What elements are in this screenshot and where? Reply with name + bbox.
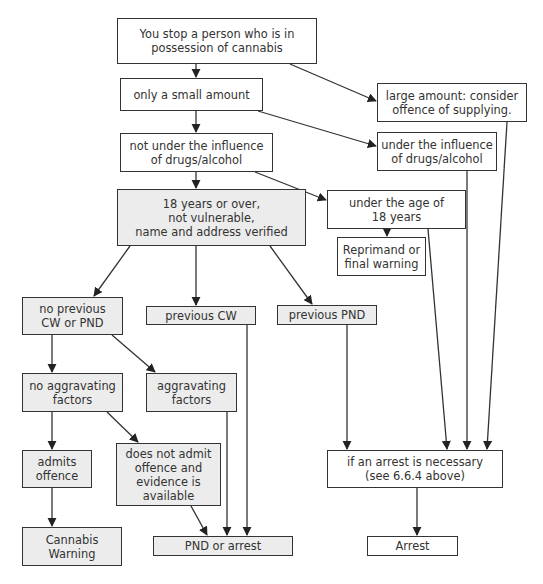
node-over-18-label: 18 years or over, not vulnerable, name a… (135, 197, 287, 239)
node-arrest-necessary: if an arrest is necessary (see 6.6.4 abo… (327, 450, 503, 488)
node-pnd-or-arrest: PND or arrest (153, 536, 293, 556)
node-no-aggravating: no aggravating factors (22, 373, 123, 412)
node-under-influence-label: under the influence of drugs/alcohol (381, 138, 493, 166)
node-arrest-label: Arrest (395, 539, 429, 553)
arrow-no-previous-to-aggravating (112, 335, 155, 372)
node-cannabis-warning: Cannabis Warning (22, 527, 122, 566)
node-no-aggravating-label: no aggravating factors (29, 379, 116, 407)
node-large-amount-label: large amount: consider offence of supply… (386, 89, 518, 117)
arrow-under18-to-arrest-necessary (428, 229, 447, 449)
node-admits: admits offence (22, 450, 92, 488)
arrow-not-admit-to-pnd (191, 506, 207, 535)
node-start-label: You stop a person who is in possession o… (140, 27, 295, 55)
node-small-amount-label: only a small amount (133, 88, 249, 102)
node-cannabis-warning-label: Cannabis Warning (46, 533, 99, 561)
arrow-large-to-arrest-necessary (487, 122, 507, 449)
node-not-admit-label: does not admit offence and evidence is a… (126, 447, 212, 503)
node-under-18-label: under the age of 18 years (349, 196, 444, 224)
node-under-18: under the age of 18 years (327, 190, 466, 229)
node-aggravating-label: aggravating factors (157, 379, 226, 407)
node-arrest: Arrest (367, 536, 458, 556)
node-arrest-necessary-label: if an arrest is necessary (see 6.6.4 abo… (347, 455, 483, 483)
arrow-over18-to-previous-pnd (270, 246, 312, 304)
node-reprimand: Reprimand or final warning (337, 237, 426, 276)
node-not-under-influence-label: not under the influence of drugs/alcohol (130, 139, 264, 167)
node-previous-pnd: previous PND (277, 305, 377, 325)
arrow-start-to-large (290, 64, 376, 101)
arrow-no-aggravating-to-not-admit (107, 412, 138, 442)
node-aggravating: aggravating factors (146, 373, 237, 412)
node-start: You stop a person who is in possession o… (117, 18, 317, 64)
node-previous-pnd-label: previous PND (289, 308, 365, 322)
node-previous-cw: previous CW (146, 306, 256, 325)
arrow-over18-to-no-previous (94, 246, 130, 296)
node-no-previous-label: no previous CW or PND (39, 302, 106, 330)
node-large-amount: large amount: consider offence of supply… (377, 83, 527, 122)
arrow-small-to-influence (258, 111, 376, 146)
node-pnd-or-arrest-label: PND or arrest (185, 539, 261, 553)
node-no-previous: no previous CW or PND (22, 297, 123, 335)
node-not-under-influence: not under the influence of drugs/alcohol (120, 133, 273, 172)
node-not-admit: does not admit offence and evidence is a… (116, 443, 221, 506)
node-admits-label: admits offence (36, 455, 78, 483)
node-under-influence: under the influence of drugs/alcohol (377, 132, 497, 171)
node-small-amount: only a small amount (120, 78, 263, 111)
node-previous-cw-label: previous CW (165, 309, 237, 323)
node-reprimand-label: Reprimand or final warning (343, 243, 420, 271)
node-over-18: 18 years or over, not vulnerable, name a… (117, 189, 306, 246)
